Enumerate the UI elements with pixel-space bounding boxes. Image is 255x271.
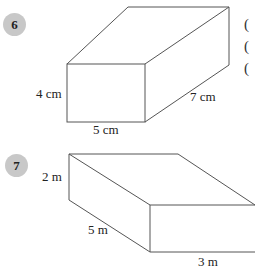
side-marker-3: ( [244, 60, 249, 77]
label-7-depth: 5 m [88, 222, 108, 238]
problem-7-number-badge: 7 [5, 154, 28, 177]
side-marker-1: ( [244, 16, 249, 33]
label-6-width: 5 cm [93, 122, 119, 138]
label-6-depth: 7 cm [190, 89, 216, 105]
cuboid-diagrams [0, 0, 255, 271]
problem-7-number: 7 [13, 158, 20, 174]
side-marker-2: ( [244, 38, 249, 55]
label-6-height: 4 cm [36, 86, 62, 102]
label-7-width: 3 m [198, 254, 218, 270]
label-7-height: 2 m [42, 169, 62, 185]
